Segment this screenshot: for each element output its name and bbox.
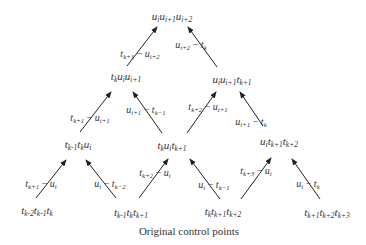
- control-point-node: tk-1tkui: [65, 138, 92, 150]
- edge-weight-label: tk+2 − ui+1: [188, 101, 227, 112]
- edge-weight-label: tk+1 − ui: [25, 178, 56, 189]
- control-point-node: tk+1tk+2tk+3: [304, 206, 349, 218]
- edge-weight-label: ui − tk−2: [94, 178, 125, 189]
- control-point-node: tkuitk+1: [157, 139, 186, 151]
- control-point-node: uiui+1ui+2: [152, 10, 192, 22]
- diagram-caption: Original control points: [139, 225, 239, 237]
- control-point-node: uiui+1tk+1: [212, 73, 251, 85]
- edge-weight-label: ui+1 − tk: [235, 116, 266, 127]
- edge-weight-label: tk+2 − ui: [139, 167, 170, 178]
- edge-weight-label: tk+3 − ui: [240, 165, 271, 176]
- edge-weight-label: tk+1 − ui+1: [70, 112, 109, 123]
- edge-weight-label: ui+2 − tk: [175, 39, 206, 50]
- edge-weight-label: ui+1 − tk−1: [126, 104, 165, 115]
- control-point-node: tk-2tk-1tk: [21, 204, 53, 216]
- control-point-node: tkuiui+1: [111, 70, 141, 82]
- edge-weight-label: ui − tk−1: [198, 179, 229, 190]
- control-point-node: uitk+1tk+2: [260, 135, 298, 147]
- arrow-edge: [127, 27, 157, 66]
- edge-weight-label: tk+1 − ui+2: [120, 48, 159, 59]
- control-point-node: tk-1tktk+1: [114, 206, 148, 218]
- control-point-node: tktk+1tk+2: [205, 205, 242, 217]
- edge-weight-label: ui − tk: [296, 178, 319, 189]
